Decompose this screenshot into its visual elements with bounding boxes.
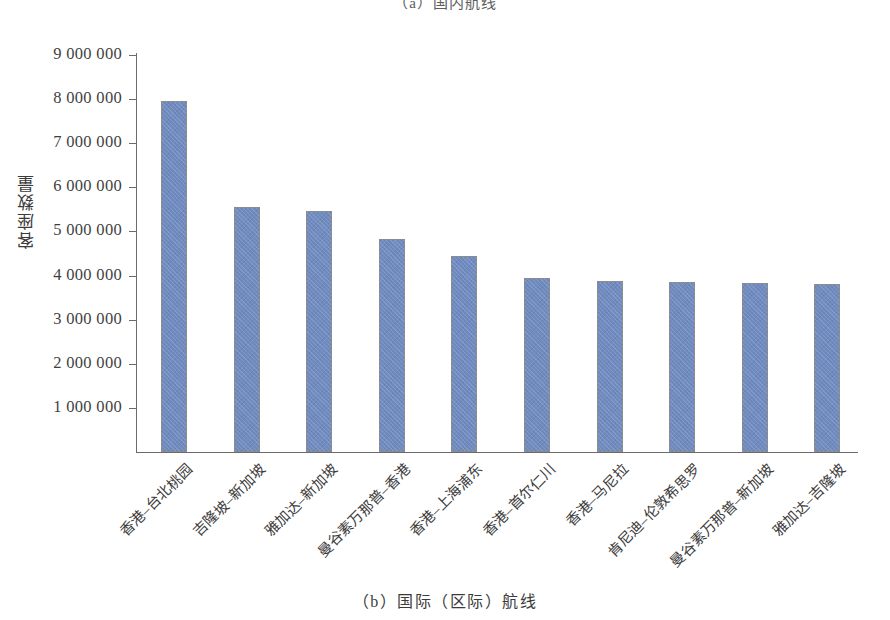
y-axis-line [136,53,137,453]
y-axis-tick-label: 8 000 000 [53,88,122,108]
y-axis-tick-mark [129,99,136,100]
y-axis-tick-mark [129,143,136,144]
y-axis-tick-label: 4 000 000 [53,265,122,285]
y-axis-tick-label: 9 000 000 [53,44,122,64]
figure-caption-bottom: （b）国际（区际）航线 [0,588,890,612]
x-axis-label-text: 香港–马尼拉 [560,458,632,530]
y-axis-tick-mark [129,276,136,277]
y-axis-tick-label: 6 000 000 [53,176,122,196]
y-axis-title: 客座数量 [14,173,39,249]
y-axis-tick-label: 7 000 000 [53,132,122,152]
y-axis-tick-label: 3 000 000 [53,309,122,329]
y-axis-tick-mark [129,55,136,56]
x-axis-label-text: 香港–台北桃园 [114,458,196,540]
bar [161,101,187,452]
y-axis-tick-label: 1 000 000 [53,397,122,417]
x-axis-label-text: 香港–上海浦东 [404,458,486,540]
y-axis-tick-label: 2 000 000 [53,353,122,373]
y-axis-tick-mark [129,320,136,321]
x-axis-label-text: 吉隆坡–新加坡 [187,458,269,540]
bar-chart-figure: 客座数量 9 000 0008 000 0007 000 0006 000 00… [0,0,890,620]
y-axis-tick-mark [129,408,136,409]
y-axis-tick-mark [129,231,136,232]
x-axis-label-text: 雅加达–吉隆坡 [767,458,849,540]
y-axis-tick-mark [129,364,136,365]
x-axis-label-text: 香港–首尔仁川 [477,458,559,540]
y-axis-tick-label: 5 000 000 [53,220,122,240]
y-axis-tick-mark [129,187,136,188]
